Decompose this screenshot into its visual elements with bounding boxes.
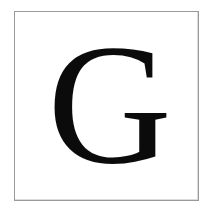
letter-glyph: G [18,11,199,198]
letter-frame: G [14,11,199,201]
image-canvas: G [0,0,213,210]
